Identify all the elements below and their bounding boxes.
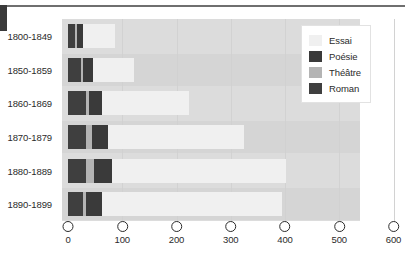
category-tick-label: 1800-1849 (7, 30, 52, 41)
bar-segment[interactable] (86, 159, 94, 183)
category-tick-label: 1880-1889 (7, 165, 52, 176)
bar-segment[interactable] (92, 125, 108, 149)
legend-item[interactable]: Roman (309, 80, 361, 96)
legend-swatch-icon (309, 35, 322, 46)
axis-tick: 200 (169, 221, 185, 245)
axis-tick: 0 (63, 221, 74, 245)
legend-swatch-icon (309, 51, 322, 62)
bar-segment[interactable] (108, 125, 244, 149)
category-tick-label: 1870-1879 (7, 131, 52, 142)
tick-label: 200 (169, 234, 185, 245)
gridline (394, 19, 395, 221)
tick-marker-icon (117, 221, 128, 232)
category-tick-label: 1860-1869 (7, 98, 52, 109)
bar-segment[interactable] (112, 159, 286, 183)
bar-stack[interactable] (68, 91, 189, 115)
bar-segment[interactable] (86, 192, 101, 216)
category-tick-label: 1850-1859 (7, 64, 52, 75)
category-tick-label: 1890-1899 (7, 199, 52, 210)
axis-tick: 300 (223, 221, 239, 245)
tick-label: 100 (114, 234, 130, 245)
legend-label: Roman (329, 83, 359, 94)
legend-item[interactable]: Théâtre (309, 64, 361, 80)
bar-stack[interactable] (68, 24, 115, 48)
bar-segment[interactable] (83, 24, 114, 48)
bar-segment[interactable] (94, 159, 112, 183)
axis-tick: 500 (331, 221, 347, 245)
legend-swatch-icon (309, 67, 322, 78)
value-axis: 0100200300400500600 (0, 221, 408, 260)
bar-stack[interactable] (68, 159, 286, 183)
bar-segment[interactable] (68, 91, 86, 115)
axis-tick: 600 (386, 221, 402, 245)
tick-marker-icon (63, 221, 74, 232)
bar-segment[interactable] (68, 159, 86, 183)
axis-tick: 400 (277, 221, 293, 245)
axis-tick: 100 (114, 221, 130, 245)
tick-label: 400 (277, 234, 293, 245)
tick-label: 300 (223, 234, 239, 245)
bar-segment[interactable] (68, 192, 83, 216)
tick-label: 600 (386, 234, 402, 245)
legend-label: Poésie (329, 51, 357, 62)
bar-stack[interactable] (68, 58, 134, 82)
bar-segment[interactable] (68, 125, 86, 149)
tick-marker-icon (334, 221, 345, 232)
legend-label: Essai (329, 35, 352, 46)
category-axis: 1800-18491850-18591860-18691870-18791880… (0, 19, 60, 221)
bar-segment[interactable] (68, 58, 81, 82)
bar-segment[interactable] (102, 91, 190, 115)
tick-marker-icon (171, 221, 182, 232)
bar-segment[interactable] (102, 192, 282, 216)
tick-marker-icon (225, 221, 236, 232)
chart-figure: 1800-18491850-18591860-18691870-18791880… (0, 0, 408, 260)
bar-segment[interactable] (89, 91, 102, 115)
bar-segment[interactable] (83, 58, 93, 82)
bar-stack[interactable] (68, 192, 282, 216)
legend-item[interactable]: Poésie (309, 48, 361, 64)
legend-label: Théâtre (329, 67, 361, 78)
bar-stack[interactable] (68, 125, 244, 149)
tick-label: 0 (63, 234, 74, 245)
legend-swatch-icon (309, 83, 322, 94)
legend-item[interactable]: Essai (309, 32, 361, 48)
top-rule-divider (0, 5, 408, 7)
tick-marker-icon (280, 221, 291, 232)
bar-segment[interactable] (93, 58, 134, 82)
tick-marker-icon (388, 221, 399, 232)
chart-legend: EssaiPoésieThéâtreRoman (301, 25, 371, 103)
tick-label: 500 (331, 234, 347, 245)
